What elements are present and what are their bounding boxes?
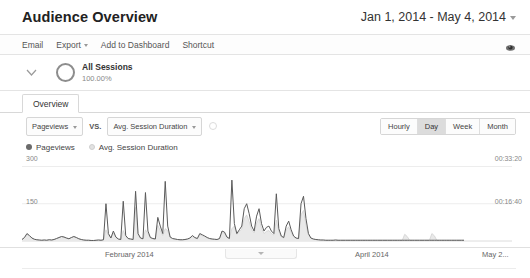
chart-legend: Pageviews Avg. Session Duration xyxy=(0,139,530,155)
x-tick-may: May 2... xyxy=(482,250,509,259)
legend-item-pageviews[interactable]: Pageviews xyxy=(26,143,75,152)
analytics-audience-overview-page: Audience Overview Jan 1, 2014 - May 4, 2… xyxy=(0,0,530,278)
segment-bar: All Sessions 100.00% xyxy=(0,55,530,91)
segment-percent: 100.00% xyxy=(82,74,133,83)
granularity-hourly[interactable]: Hourly xyxy=(381,119,418,134)
legend-dot-icon xyxy=(89,144,95,150)
granularity-week[interactable]: Week xyxy=(446,119,480,134)
shortcut-label: Shortcut xyxy=(182,40,214,50)
vs-label: VS. xyxy=(89,122,101,131)
segment-expand-toggle[interactable] xyxy=(22,64,40,82)
export-label: Export xyxy=(56,40,81,50)
add-circle-icon[interactable] xyxy=(209,122,217,130)
segment-info[interactable]: All Sessions 100.00% xyxy=(82,62,133,83)
y-axis-left-tick-mid: 150 xyxy=(26,198,38,205)
y-axis-right-tick-top: 00:33:20 xyxy=(495,155,522,162)
email-label: Email xyxy=(22,40,43,50)
tab-overview[interactable]: Overview xyxy=(22,94,79,113)
shortcut-button[interactable]: Shortcut xyxy=(182,40,214,50)
x-tick-february: February 2014 xyxy=(105,250,154,259)
legend-label-avg-session-duration: Avg. Session Duration xyxy=(99,143,178,152)
chevron-down-icon xyxy=(73,126,77,129)
secondary-metric-label: Avg. Session Duration xyxy=(113,122,187,131)
annotations-drawer-handle[interactable] xyxy=(225,249,297,259)
export-button[interactable]: Export xyxy=(56,40,88,50)
chart-canvas xyxy=(0,155,530,247)
segment-ring-icon xyxy=(56,63,75,82)
action-toolbar: Email Export Add to Dashboard Shortcut xyxy=(0,34,530,55)
x-tick-april: April 2014 xyxy=(355,250,389,259)
chevron-down-icon xyxy=(510,16,516,20)
date-range-picker[interactable]: Jan 1, 2014 - May 4, 2014 xyxy=(361,10,516,24)
date-range-label: Jan 1, 2014 - May 4, 2014 xyxy=(361,10,506,24)
email-button[interactable]: Email xyxy=(22,40,43,50)
granularity-group: Hourly Day Week Month xyxy=(380,118,516,135)
legend-item-avg-session-duration[interactable]: Avg. Session Duration xyxy=(89,143,178,152)
y-axis-right-tick-mid: 00:16:40 xyxy=(495,198,522,205)
legend-label-pageviews: Pageviews xyxy=(36,143,75,152)
segment-name: All Sessions xyxy=(82,62,133,73)
add-to-dashboard-label: Add to Dashboard xyxy=(101,40,170,50)
timeseries-chart[interactable]: 300 150 00:33:20 00:16:40 xyxy=(0,155,530,247)
chevron-down-icon xyxy=(192,126,196,129)
add-to-dashboard-button[interactable]: Add to Dashboard xyxy=(101,40,170,50)
eye-annotations-icon[interactable] xyxy=(505,39,516,50)
granularity-month[interactable]: Month xyxy=(480,119,515,134)
y-axis-left-tick-top: 300 xyxy=(26,155,38,162)
secondary-metric-select[interactable]: Avg. Session Duration xyxy=(107,117,202,136)
metric-controls: Pageviews VS. Avg. Session Duration Hour… xyxy=(0,113,530,139)
granularity-day[interactable]: Day xyxy=(418,119,446,134)
primary-metric-label: Pageviews xyxy=(32,122,68,131)
x-axis: February 2014 March 2014 April 2014 May … xyxy=(0,247,530,262)
chevron-down-icon xyxy=(258,252,264,255)
legend-dot-icon xyxy=(26,144,32,150)
tab-bar: Overview xyxy=(0,91,530,113)
page-title: Audience Overview xyxy=(22,9,157,25)
page-header: Audience Overview Jan 1, 2014 - May 4, 2… xyxy=(0,0,530,34)
primary-metric-select[interactable]: Pageviews xyxy=(26,117,83,136)
footer-divider xyxy=(22,268,516,269)
chevron-down-icon xyxy=(84,44,88,47)
